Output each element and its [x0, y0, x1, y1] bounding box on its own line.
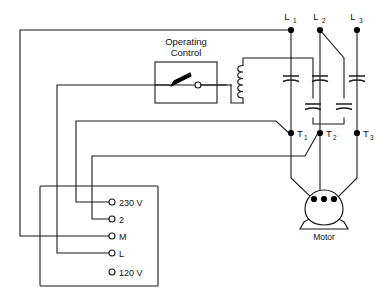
wire-t3-to-motor — [337, 133, 357, 198]
terminal-label-2: 2 — [119, 215, 124, 225]
node-l2[interactable] — [317, 27, 323, 33]
wiring-diagram-canvas: 230 V 2 M L 120 V Operating Control — [0, 0, 391, 295]
node-t3[interactable] — [354, 130, 360, 136]
relay-coil-icon — [238, 66, 243, 99]
wire-l2-diagonal-branch — [320, 30, 344, 98]
label-t2: T — [326, 128, 332, 139]
motor-label: Motor — [313, 232, 335, 242]
wire-cross-cap-bottom-bus — [313, 118, 344, 124]
motor-terminal-2 — [321, 196, 327, 202]
terminal-ring-2[interactable] — [109, 216, 115, 222]
operating-control-title-line2: Control — [171, 47, 202, 58]
terminal-ring-m[interactable] — [109, 233, 115, 239]
terminal-label-230v: 230 V — [119, 198, 143, 208]
motor-symbol[interactable] — [300, 190, 348, 229]
operating-control-title-line1: Operating — [165, 36, 207, 47]
terminal-ring-120v[interactable] — [109, 269, 115, 275]
terminal-label-m: M — [119, 232, 127, 242]
label-l2-subscript: 2 — [322, 17, 326, 24]
node-t2[interactable] — [317, 130, 323, 136]
node-l3[interactable] — [354, 27, 360, 33]
terminal-ring-230v[interactable] — [109, 199, 115, 205]
label-t2-subscript: 2 — [333, 134, 337, 141]
motor-terminal-3 — [331, 196, 337, 202]
label-l1-subscript: 1 — [293, 17, 297, 24]
label-l3: L — [350, 11, 355, 22]
label-t3: T — [363, 128, 369, 139]
label-t1: T — [297, 128, 303, 139]
wire-control-to-terminal-l — [57, 85, 226, 253]
capacitor-cross-left — [305, 104, 321, 110]
motor-terminal-1 — [311, 196, 317, 202]
node-l1[interactable] — [288, 27, 294, 33]
operating-control-box[interactable] — [155, 62, 217, 103]
terminal-ring-l[interactable] — [109, 250, 115, 256]
terminal-label-120v: 120 V — [119, 268, 143, 278]
wire-l1-to-terminal-m — [20, 30, 291, 236]
wire-l1-bus-to-cross-cap — [291, 58, 313, 98]
label-l1: L — [284, 11, 289, 22]
label-l2: L — [313, 11, 318, 22]
label-l3-subscript: 3 — [359, 17, 363, 24]
wire-switch-to-coil-bottom — [231, 85, 243, 103]
wire-coil-top-to-l1-bus — [243, 58, 291, 66]
wire-t1-to-terminal-230v — [76, 121, 289, 202]
node-t1[interactable] — [288, 130, 294, 136]
control-switch-icon[interactable] — [171, 73, 201, 88]
capacitor-cross-right — [336, 104, 352, 110]
label-t3-subscript: 3 — [370, 134, 374, 141]
wiring-diagram-svg: 230 V 2 M L 120 V Operating Control — [0, 0, 391, 295]
terminal-label-l: L — [119, 249, 124, 259]
label-t1-subscript: 1 — [304, 134, 308, 141]
wire-t1-to-motor — [291, 133, 312, 198]
